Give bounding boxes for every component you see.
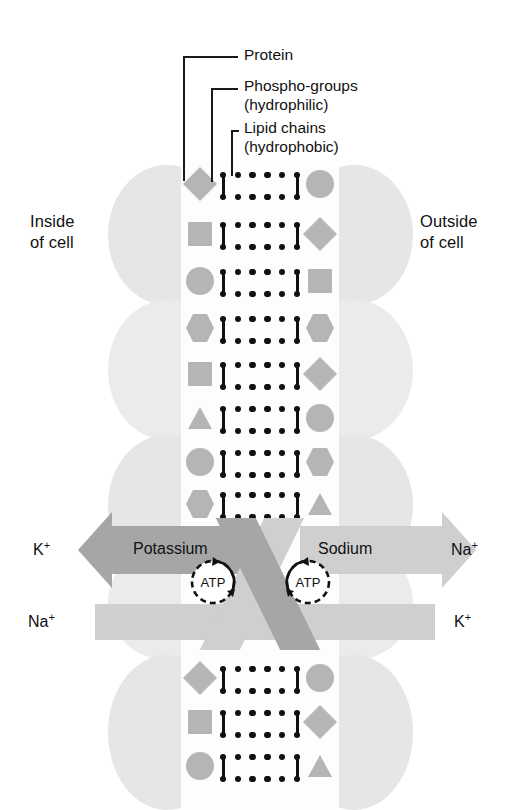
lipid-chain-dot [249, 406, 255, 412]
ion-charge: + [465, 611, 471, 623]
lipid-chain-dot [249, 269, 255, 275]
lipid-chain-dot [294, 291, 300, 297]
lipid-chain-dot [235, 450, 241, 456]
lipid-chain-dot [235, 472, 241, 478]
lipid-chain-dot [294, 244, 300, 250]
lipid-chain-dot [279, 406, 285, 412]
lipid-chain-dot [220, 666, 226, 672]
atp-cycle-right: ATP [281, 555, 335, 609]
lipid-chain-dot [294, 384, 300, 390]
lipid-chain-dot [235, 338, 241, 344]
lipid-chain-dot [294, 316, 300, 322]
lipid-chain-dot [294, 406, 300, 412]
ion-label-k-outflow-left: K+ [33, 539, 50, 559]
lipid-chain-dot [279, 384, 285, 390]
lipid-chain-dot [294, 710, 300, 716]
lipid-chain-dot [279, 472, 285, 478]
leader-line-phospho-h [211, 88, 238, 90]
lipid-chain-dot [294, 688, 300, 694]
lipid-chain-dot [235, 172, 241, 178]
lipid-chain-dot [264, 776, 270, 782]
lipid-chain-dot [220, 492, 226, 498]
lipid-chain-dot [294, 492, 300, 498]
lipid-chain-dot [235, 710, 241, 716]
lipid-chain-dot [235, 428, 241, 434]
protein-triangle [188, 407, 212, 429]
lipid-chain-dot [235, 384, 241, 390]
lipid-chain-dot [294, 338, 300, 344]
lipid-chain-dot [279, 776, 285, 782]
leader-line-protein-h [183, 56, 238, 58]
lipid-chain-dot [249, 194, 255, 200]
lipid-chain-dot [279, 222, 285, 228]
lipid-chain-dot [264, 316, 270, 322]
lipid-chain-dot [249, 338, 255, 344]
lipid-chain-dot [249, 428, 255, 434]
lipid-chain-dot [249, 710, 255, 716]
lipid-chain-dot [279, 316, 285, 322]
lipid-chain-dot [264, 384, 270, 390]
label-outside-of-cell: Outside of cell [420, 211, 478, 253]
lipid-chain-dot [264, 172, 270, 178]
lipid-chain-dot [249, 688, 255, 694]
lipid-chain-dot [235, 754, 241, 760]
lipid-chain-dot [235, 688, 241, 694]
lipid-chain-dot [294, 269, 300, 275]
lipid-chain-dot [294, 172, 300, 178]
ion-charge: + [48, 611, 54, 623]
lipid-chain-dot [235, 269, 241, 275]
lipid-chain-dot [294, 776, 300, 782]
lipid-chain-dot [220, 406, 226, 412]
ion-label-na-outflow-right: Na+ [451, 539, 478, 559]
leader-line-protein-v [183, 56, 185, 181]
lipid-chain-dot [264, 406, 270, 412]
protein-triangle [308, 493, 332, 515]
lipid-chain-dot [264, 338, 270, 344]
lipid-chain-dot [294, 754, 300, 760]
lipid-chain-dot [249, 362, 255, 368]
lipid-chain-dot [264, 194, 270, 200]
lipid-chain-dot [294, 450, 300, 456]
lipid-chain-dot [294, 732, 300, 738]
lipid-chain-dot [220, 338, 226, 344]
lipid-chain-dot [294, 428, 300, 434]
ion-symbol: Na [451, 541, 471, 558]
callout-lipid-chains: Lipid chains (hydrophobic) [244, 119, 339, 156]
protein-square [188, 362, 212, 386]
lipid-chain-dot [249, 244, 255, 250]
lipid-chain-dot [264, 428, 270, 434]
leader-line-lipid-v [231, 130, 233, 176]
protein-circle [186, 267, 214, 295]
protein-triangle [308, 755, 332, 777]
lipid-chain-dot [279, 450, 285, 456]
atp-label: ATP [186, 555, 240, 609]
lipid-chain-dot [220, 754, 226, 760]
lipid-chain-dot [279, 269, 285, 275]
lipid-chain-dot [249, 732, 255, 738]
lipid-chain-dot [249, 492, 255, 498]
lipid-chain-dot [249, 776, 255, 782]
lipid-chain-dot [220, 472, 226, 478]
ion-label-na-inflow-left: Na+ [28, 611, 55, 631]
potassium-arrow-head [78, 512, 112, 588]
lipid-chain-dot [249, 172, 255, 178]
leader-line-phospho-v [211, 88, 213, 182]
protein-circle [306, 664, 334, 692]
atp-cycle-left: ATP [186, 555, 240, 609]
protein-square [308, 269, 332, 293]
lipid-chain-dot [220, 362, 226, 368]
lipid-chain-dot [249, 222, 255, 228]
lipid-chain-dot [279, 172, 285, 178]
protein-square [188, 710, 212, 734]
protein-circle [306, 170, 334, 198]
lipid-chain-dot [264, 492, 270, 498]
lipid-chain-dot [264, 472, 270, 478]
lipid-chain-dot [279, 492, 285, 498]
lipid-chain-dot [249, 666, 255, 672]
protein-circle [306, 404, 334, 432]
lipid-chain-dot [264, 450, 270, 456]
lipid-chain-dot [220, 194, 226, 200]
lipid-chain-dot [235, 492, 241, 498]
lipid-chain-dot [235, 732, 241, 738]
ion-charge: + [471, 539, 477, 551]
